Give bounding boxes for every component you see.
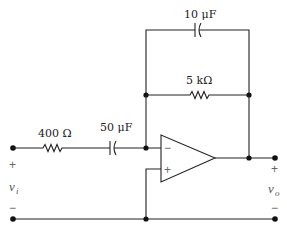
circuit-diagram: 10 μF 5 kΩ 400 Ω 50 μF − +: [0, 0, 287, 228]
opamp: − +: [146, 135, 278, 219]
svg-text:o: o: [275, 188, 280, 198]
input-capacitor-label: 50 μF: [100, 121, 133, 134]
feedback-resistor-branch: 5 kΩ: [143, 74, 251, 99]
feedback-resistor-label: 5 kΩ: [186, 74, 212, 87]
input-voltage-label: + v i −: [9, 158, 19, 215]
output-ground-terminal: [272, 216, 278, 222]
input-ground-terminal: [10, 216, 16, 222]
output-terminal: [272, 155, 278, 161]
svg-text:v: v: [268, 181, 274, 196]
node-dot: [143, 145, 148, 150]
output-voltage-label: + v o −: [268, 162, 280, 215]
opamp-inverting-sign: −: [164, 141, 171, 155]
svg-text:i: i: [16, 186, 19, 196]
svg-text:−: −: [9, 201, 16, 215]
input-resistor-label: 400 Ω: [38, 127, 72, 140]
feedback-capacitor-label: 10 μF: [184, 8, 217, 21]
node-dot: [246, 155, 251, 160]
input-path: 400 Ω 50 μF: [10, 121, 161, 155]
svg-text:+: +: [9, 158, 16, 172]
node-dot: [143, 216, 148, 221]
svg-text:−: −: [271, 201, 278, 215]
bottom-rail: [10, 216, 278, 222]
svg-text:+: +: [271, 162, 278, 176]
svg-text:v: v: [9, 179, 15, 194]
opamp-noninverting-sign: +: [164, 163, 171, 177]
